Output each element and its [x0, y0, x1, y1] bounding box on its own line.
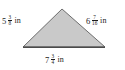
base-denominator: 4: [51, 60, 54, 65]
base-side-label: 7 3 4 in: [45, 54, 64, 66]
left-whole-number: 5: [2, 17, 6, 26]
left-side-label: 5 3 8 in: [2, 15, 21, 27]
base-whole-number: 7: [45, 56, 49, 65]
left-denominator: 8: [8, 21, 11, 26]
left-fraction: 3 8: [8, 15, 13, 27]
base-unit: in: [57, 56, 63, 64]
base-fraction: 3 4: [51, 54, 56, 66]
right-denominator: 16: [92, 21, 98, 26]
triangle-figure: 5 3 8 in 6 7 16 in 7 3 4 in: [0, 0, 125, 70]
right-fraction: 7 16: [92, 15, 98, 27]
right-side-label: 6 7 16 in: [86, 15, 107, 27]
right-unit: in: [100, 17, 106, 25]
left-unit: in: [14, 17, 20, 25]
right-whole-number: 6: [86, 17, 90, 26]
